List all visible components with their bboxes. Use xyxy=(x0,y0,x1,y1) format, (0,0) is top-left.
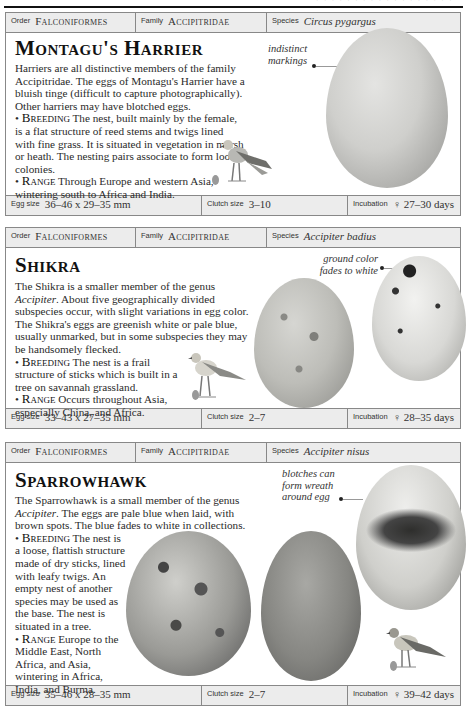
intro-text: The Sparrowhawk is a small member of the… xyxy=(15,494,239,506)
egg-size-label: Egg size xyxy=(11,689,40,698)
clutch-size-cell: Clutch size3–10 xyxy=(202,196,348,215)
page-running-header: · · · · · · · · · · · · · · · · · · xyxy=(4,0,463,8)
range-heading: Range xyxy=(22,391,56,406)
family-value: Accipitridae xyxy=(168,230,229,242)
egg-scale-icon xyxy=(390,661,397,671)
harrier-illustration xyxy=(218,137,274,187)
clutch-size-value: 3–10 xyxy=(249,198,271,210)
clutch-size-label: Clutch size xyxy=(207,689,244,698)
incubation-value: ♀ 28–35 days xyxy=(393,411,454,423)
order-value: Falconiformes xyxy=(35,230,107,242)
species-label: Species xyxy=(272,16,299,25)
egg-scale-icon xyxy=(212,175,219,185)
egg-image-speckled xyxy=(261,531,361,681)
range-heading: Range xyxy=(22,173,56,188)
entry-body: Shikra The Shikra is a smaller member of… xyxy=(6,248,460,408)
family-label: Family xyxy=(141,446,163,455)
entry-shikra: OrderFalconiformes FamilyAccipitridae Sp… xyxy=(5,227,461,429)
breeding-heading: Breeding xyxy=(22,530,70,545)
entry-sparrowhawk: OrderFalconiformes FamilyAccipitridae Sp… xyxy=(5,442,461,706)
entry-title: Sparrowhawk xyxy=(15,468,147,493)
incubation-label: Incubation xyxy=(353,199,388,208)
incubation-cell: Incubation♀ 27–30 days xyxy=(348,196,460,215)
family-cell: FamilyAccipitridae xyxy=(136,13,267,32)
incubation-cell: Incubation♀ 28–35 days xyxy=(348,409,460,428)
entry-body: Montagu's Harrier Harriers are all disti… xyxy=(6,33,460,195)
incubation-label: Incubation xyxy=(353,412,388,421)
species-cell: SpeciesAccipiter badius xyxy=(267,228,460,247)
entry-body: Sparrowhawk The Sparrowhawk is a small m… xyxy=(6,463,460,685)
clutch-size-label: Clutch size xyxy=(207,412,244,421)
range-heading: Range xyxy=(22,631,56,646)
egg-annotation: ground color fades to white xyxy=(308,253,378,276)
family-cell: FamilyAccipitridae xyxy=(136,443,267,462)
intro-text: Harriers are all distinctive members of … xyxy=(15,62,245,112)
running-header-fragment: · · · · · · · · · · · · · · · · · · xyxy=(316,0,453,5)
egg-size-label: Egg size xyxy=(11,199,40,208)
breeding-text: The nest is a loose, flattish structure … xyxy=(15,532,125,632)
species-value: Accipiter nisus xyxy=(304,445,370,457)
clutch-size-value: 2–7 xyxy=(249,411,266,423)
clutch-size-label: Clutch size xyxy=(207,199,244,208)
intro-text: The Shikra is a smaller member of the ge… xyxy=(15,280,215,292)
clutch-size-cell: Clutch size2–7 xyxy=(202,686,348,705)
family-cell: FamilyAccipitridae xyxy=(136,228,267,247)
incubation-cell: Incubation♀ 39–42 days xyxy=(348,686,460,705)
egg-size-label: Egg size xyxy=(11,412,40,421)
species-label: Species xyxy=(272,231,299,240)
genus-name: Accipiter xyxy=(15,293,56,305)
egg-image-flecked xyxy=(372,256,466,381)
entry-title: Montagu's Harrier xyxy=(15,36,203,61)
egg-scale-icon xyxy=(192,390,199,400)
species-label: Species xyxy=(272,446,299,455)
entry-description: Harriers are all distinctive members of … xyxy=(15,62,245,201)
breeding-heading: Breeding xyxy=(22,354,70,369)
egg-image-spotted xyxy=(254,278,354,408)
annotation-leader xyxy=(343,499,363,500)
egg-annotation: indistinct markings xyxy=(268,43,328,66)
order-cell: OrderFalconiformes xyxy=(6,13,136,32)
taxonomy-header: OrderFalconiformes FamilyAccipitridae Sp… xyxy=(6,228,460,248)
species-cell: SpeciesCircus pygargus xyxy=(267,13,460,32)
egg-image-wreathed xyxy=(356,465,466,610)
incubation-value: ♀ 39–42 days xyxy=(393,688,454,700)
taxonomy-header: OrderFalconiformes FamilyAccipitridae Sp… xyxy=(6,443,460,463)
species-cell: SpeciesAccipiter nisus xyxy=(267,443,460,462)
order-value: Falconiformes xyxy=(35,15,107,27)
entry-montagus-harrier: OrderFalconiformes FamilyAccipitridae Sp… xyxy=(5,12,461,216)
order-cell: OrderFalconiformes xyxy=(6,228,136,247)
family-value: Accipitridae xyxy=(168,445,229,457)
incubation-value: ♀ 27–30 days xyxy=(393,198,454,210)
genus-name: Accipiter xyxy=(15,507,56,519)
breeding-heading: Breeding xyxy=(22,110,70,125)
family-value: Accipitridae xyxy=(168,15,229,27)
order-cell: OrderFalconiformes xyxy=(6,443,136,462)
family-label: Family xyxy=(141,231,163,240)
species-value: Circus pygargus xyxy=(304,15,376,27)
order-label: Order xyxy=(11,231,30,240)
order-value: Falconiformes xyxy=(35,445,107,457)
order-label: Order xyxy=(11,446,30,455)
entry-title: Shikra xyxy=(15,253,81,278)
egg-image xyxy=(326,28,448,188)
species-value: Accipiter badius xyxy=(304,230,376,242)
order-label: Order xyxy=(11,16,30,25)
family-label: Family xyxy=(141,16,163,25)
clutch-size-cell: Clutch size2–7 xyxy=(202,409,348,428)
incubation-label: Incubation xyxy=(353,689,388,698)
